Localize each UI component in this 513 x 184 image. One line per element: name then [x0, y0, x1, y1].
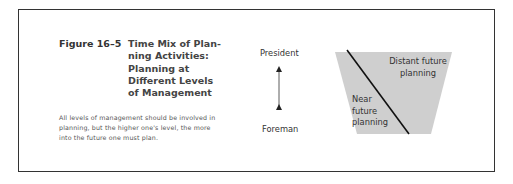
label-foreman: Foreman: [262, 124, 298, 134]
region-line: Near: [352, 94, 388, 106]
near-future-planning-label: Near future planning: [352, 94, 388, 129]
region-line: Distant future: [377, 56, 459, 68]
distant-future-planning-label: Distant future planning: [377, 56, 459, 79]
region-line: planning: [377, 68, 459, 80]
region-line: future: [352, 106, 388, 118]
planning-diagram: [0, 0, 513, 184]
region-line: planning: [352, 117, 388, 129]
label-president: President: [260, 48, 299, 58]
